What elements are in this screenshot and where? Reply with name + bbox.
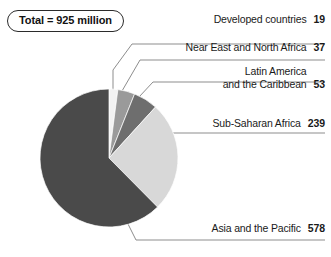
callout-asia-pacific: Asia and the Pacific 578	[212, 222, 325, 235]
callout-label-latin-line1: Latin America	[245, 65, 307, 77]
total-badge: Total = 925 million	[7, 10, 124, 32]
callout-label-latin-line2: and the Caribbean	[223, 78, 307, 90]
pie-chart-figure: Total = 925 million Developed countries …	[0, 0, 331, 257]
callout-value-sub-saharan-africa: 239	[308, 117, 325, 130]
callout-label-latin-america-caribbean: Latin Americaand the Caribbean	[223, 65, 307, 90]
callout-label-near-east-north-africa: Near East and North Africa	[186, 41, 307, 54]
callout-value-developed-countries: 19	[314, 13, 325, 26]
callout-label-sub-saharan-africa: Sub-Saharan Africa	[212, 117, 300, 130]
pie-slices	[40, 89, 178, 227]
callout-value-latin-america-caribbean: 53	[314, 78, 325, 91]
callout-developed-countries: Developed countries 19	[214, 13, 325, 26]
callout-value-near-east-north-africa: 37	[314, 41, 325, 54]
callout-value-asia-pacific: 578	[308, 222, 325, 235]
callout-label-asia-pacific: Asia and the Pacific	[212, 222, 301, 235]
callout-latin-america-caribbean: Latin Americaand the Caribbean 53	[223, 65, 325, 90]
callout-label-developed-countries: Developed countries	[214, 13, 307, 26]
callout-sub-saharan-africa: Sub-Saharan Africa 239	[212, 117, 325, 130]
callout-near-east-north-africa: Near East and North Africa 37	[186, 41, 325, 54]
